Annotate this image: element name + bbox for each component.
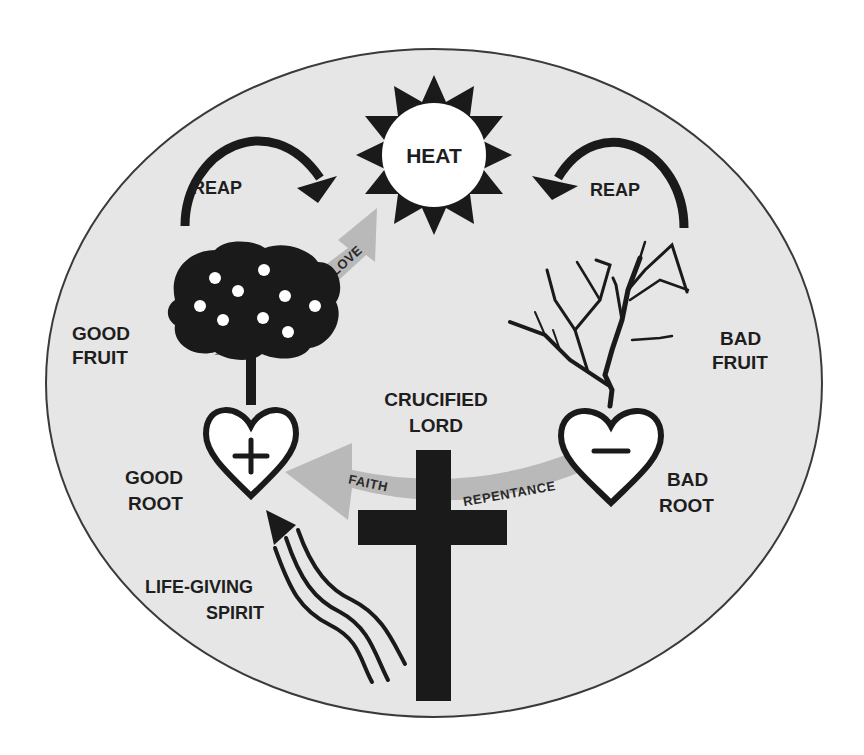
bad-fruit-label-line1: BAD: [720, 328, 761, 349]
good-root-label-line2: ROOT: [128, 493, 183, 514]
good-fruit-label-line2: FRUIT: [72, 347, 128, 368]
good-root-label-line1: GOOD: [125, 467, 183, 488]
spirit-label-line1: LIFE-GIVING: [145, 577, 253, 597]
reap-right-label: REAP: [590, 180, 640, 200]
reap-left-label: REAP: [192, 178, 242, 198]
bad-fruit-label-line2: FRUIT: [712, 352, 768, 373]
cross-vertical: [416, 450, 451, 701]
bad-root-label-line1: BAD: [667, 469, 708, 490]
good-bad-root-diagram: FAITH REPENTANCE LOVE HEAT REAP REAP: [0, 0, 864, 755]
cross-horizontal: [358, 510, 507, 545]
heat-label: HEAT: [406, 144, 462, 167]
lord-label: LORD: [409, 415, 463, 436]
good-fruit-label-line1: GOOD: [72, 323, 130, 344]
crucified-label: CRUCIFIED: [384, 389, 487, 410]
bad-root-label-line2: ROOT: [659, 495, 714, 516]
spirit-label-line2: SPIRIT: [206, 603, 264, 623]
